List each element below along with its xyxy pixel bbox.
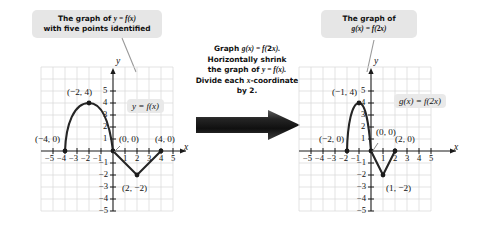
- equation-label-left-text: y = f(x): [132, 101, 159, 111]
- callout-left-line1b: y = f(x): [114, 14, 136, 23]
- xtick-left-0: −5: [45, 153, 54, 163]
- ytick-right-6: −2: [357, 169, 366, 179]
- instruction-line1b: g(x) = f(: [242, 44, 267, 53]
- ytick-left-2: 3: [103, 109, 107, 119]
- instruction-line3b: y = f(x).: [262, 65, 286, 74]
- point-label-right-1: (−1, 4): [332, 87, 357, 97]
- ytick-right-3: 2: [361, 121, 365, 131]
- transformation-arrow: [196, 110, 300, 140]
- xtick-left-2: −3: [69, 153, 78, 163]
- instruction-line5: by 2.: [237, 86, 258, 95]
- xtick-left-7: 3: [147, 153, 151, 163]
- ytick-left-7: −3: [99, 181, 108, 191]
- callout-left-graph-description: The graph of y = f(x) with five points i…: [32, 10, 162, 38]
- xtick-left-9: 5: [171, 153, 175, 163]
- xtick-right-1: −4: [315, 153, 324, 163]
- point-label-right-0: (−2, 0): [319, 134, 344, 144]
- ytick-left-0: 5: [103, 85, 107, 95]
- instruction-line4c: -coordinate: [250, 76, 298, 85]
- ytick-left-6: −2: [99, 169, 108, 179]
- point-label-right-4: (2, 0): [395, 134, 415, 144]
- xtick-left-5: 1: [123, 153, 127, 163]
- y-axis-label-right: y: [374, 56, 378, 66]
- ytick-right-2: 3: [361, 109, 365, 119]
- point-label-left-1: (−2, 4): [67, 87, 92, 97]
- callout-right-line2c: x): [380, 24, 386, 33]
- xtick-right-3: −2: [339, 153, 348, 163]
- callout-right-graph-description: The graph of g(x) = f(2x): [321, 10, 417, 38]
- ytick-right-5: −1: [357, 157, 366, 167]
- chart-right-g-of-x: x y −5 −4 −3 −2 −1 1 2 3 4 5 5 4 3 2 1 −…: [296, 54, 476, 220]
- xtick-right-8: 4: [417, 153, 421, 163]
- x-axis-label-right: x: [454, 142, 458, 152]
- instruction-line3a: the graph of: [208, 65, 262, 74]
- xtick-right-6: 2: [393, 153, 397, 163]
- ytick-left-1: 4: [103, 97, 107, 107]
- instruction-line1d: x).: [272, 44, 280, 53]
- ytick-right-1: 4: [361, 97, 365, 107]
- xtick-right-5: 1: [381, 153, 385, 163]
- callout-right-line1: The graph of: [342, 14, 395, 23]
- x-axis-label-left: x: [184, 142, 188, 152]
- equation-label-right: g(x) = f(2x): [394, 94, 446, 108]
- xtick-right-7: 3: [405, 153, 409, 163]
- point-label-left-2: (0, 0): [119, 134, 139, 144]
- ytick-right-8: −4: [357, 193, 366, 203]
- xtick-left-8: 4: [159, 153, 163, 163]
- point-label-right-2: (0, 0): [376, 127, 396, 137]
- ytick-right-7: −3: [357, 181, 366, 191]
- ytick-right-9: −5: [357, 205, 366, 215]
- callout-left-line1a: The graph of: [58, 14, 114, 23]
- xtick-left-6: 2: [135, 153, 139, 163]
- ytick-left-8: −4: [99, 193, 108, 203]
- ytick-left-4: 1: [103, 133, 107, 143]
- y-axis-label-left: y: [116, 56, 120, 66]
- xtick-right-9: 5: [429, 153, 433, 163]
- instruction-line1a: Graph: [214, 44, 242, 53]
- point-label-left-4: (4, 0): [155, 134, 175, 144]
- xtick-left-3: −2: [81, 153, 90, 163]
- point-label-left-3: (2, −2): [122, 183, 147, 193]
- ytick-left-5: −1: [99, 157, 108, 167]
- callout-left-line2: with five points identified: [43, 24, 150, 33]
- ytick-right-4: 1: [361, 133, 365, 143]
- instruction-line2: Horizontally shrink: [207, 55, 286, 64]
- point-label-right-3: (1, −2): [386, 183, 411, 193]
- transformation-figure: The graph of y = f(x) with five points i…: [0, 0, 481, 242]
- transformation-instruction: Graph g(x) = f(2x). Horizontally shrink …: [186, 44, 308, 97]
- equation-label-right-text: g(x) = f(2x): [399, 96, 441, 106]
- point-label-left-0: (−4, 0): [35, 134, 60, 144]
- ytick-left-9: −5: [99, 205, 108, 215]
- equation-label-left: y = f(x): [127, 99, 164, 113]
- xtick-right-0: −5: [303, 153, 312, 163]
- ytick-left-3: 2: [103, 121, 107, 131]
- xtick-right-2: −3: [327, 153, 336, 163]
- chart-left-f-of-x: x y −5 −4 −3 −2 −1 1 2 3 4 5 5 4 3 2 1 −…: [36, 54, 196, 220]
- ytick-right-0: 5: [361, 85, 365, 95]
- callout-right-line2a: g(x) = f(: [351, 24, 376, 33]
- xtick-left-1: −4: [57, 153, 66, 163]
- instruction-line4a: Divide each: [196, 76, 247, 85]
